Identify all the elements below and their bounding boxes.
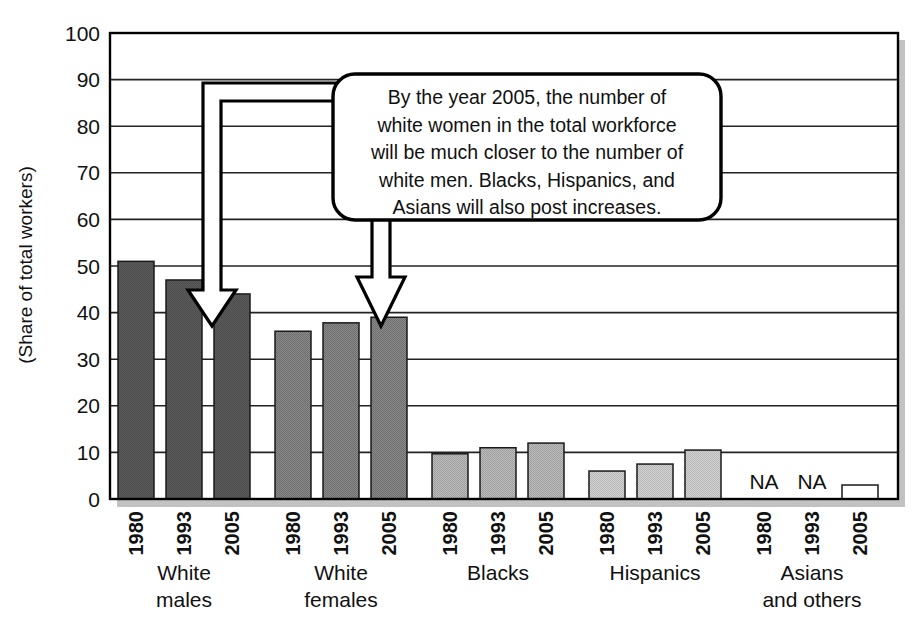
bar-white-females-1980 [275,331,311,499]
y-axis-title: (Share of total workers) [15,166,36,363]
bar-white-males-1993 [166,280,202,499]
x-tick-year-3-1980: 1980 [596,511,618,556]
callout-text-line-2: white women in the total workforce [376,114,676,136]
group-label-asians-line2: and others [762,588,861,611]
y-axis-tick-labels: 0102030405060708090100 [65,22,100,511]
bar-hispanics-1993 [637,464,673,499]
na-label-1993: NA [797,470,826,493]
group-label-blacks: Blacks [467,561,529,584]
bar-hispanics-2005 [685,450,721,499]
x-tick-year-1-2005: 2005 [378,511,400,556]
bar-white-males-2005 [214,294,250,499]
group-label-asians: Asians [780,561,843,584]
x-tick-year-4-1993: 1993 [801,511,823,556]
x-tick-year-0-1993: 1993 [173,511,195,556]
bar-blacks-2005 [528,443,564,499]
bar-hispanics-1980 [589,471,625,499]
bar-white-males-1980 [118,261,154,499]
y-tick-label-50: 50 [77,255,100,278]
x-tick-year-4-1980: 1980 [753,511,775,556]
x-tick-year-4-2005: 2005 [849,511,871,556]
y-tick-label-20: 20 [77,394,100,417]
bar-white-females-1993 [323,323,359,499]
y-tick-label-70: 70 [77,161,100,184]
chart-canvas: NANA 0102030405060708090100 (Share of to… [0,0,917,637]
x-tick-year-2-1980: 1980 [439,511,461,556]
y-tick-label-30: 30 [77,348,100,371]
x-tick-year-1-1993: 1993 [330,511,352,556]
y-tick-label-10: 10 [77,441,100,464]
group-label-white: White [157,561,211,584]
group-label-white: White [314,561,368,584]
y-tick-label-80: 80 [77,115,100,138]
y-tick-label-60: 60 [77,208,100,231]
bar-blacks-1980 [432,454,468,499]
x-axis-group-labels: WhitemalesWhitefemalesBlacksHispanicsAsi… [156,561,862,611]
x-tick-year-0-1980: 1980 [125,511,147,556]
bar-blacks-1993 [480,448,516,499]
callout-text-line-3: will be much closer to the number of [370,141,684,163]
x-axis-year-labels: 1980199320051980199320051980199320051980… [125,511,871,556]
group-label-white-line2: females [304,588,378,611]
x-tick-year-3-2005: 2005 [692,511,714,556]
group-label-white-line2: males [156,588,212,611]
bar-asians-and-others-2005 [842,485,878,499]
x-tick-year-3-1993: 1993 [644,511,666,556]
na-label-1980: NA [749,470,778,493]
y-tick-label-40: 40 [77,301,100,324]
callout-text-line-5: Asians will also post increases. [393,196,662,218]
x-tick-year-2-1993: 1993 [487,511,509,556]
callout-text-line-4: white men. Blacks, Hispanics, and [378,169,675,191]
group-label-hispanics: Hispanics [609,561,700,584]
callout-text-line-1: By the year 2005, the number of [388,86,667,108]
bar-chart-figure: NANA 0102030405060708090100 (Share of to… [0,0,917,637]
y-tick-label-0: 0 [88,488,100,511]
y-tick-label-90: 90 [77,68,100,91]
callout-text: By the year 2005, the number ofwhite wom… [370,86,684,218]
x-tick-year-0-2005: 2005 [221,511,243,556]
bar-white-females-2005 [371,317,407,499]
y-tick-label-100: 100 [65,22,100,45]
x-tick-year-2-2005: 2005 [535,511,557,556]
x-tick-year-1-1980: 1980 [282,511,304,556]
